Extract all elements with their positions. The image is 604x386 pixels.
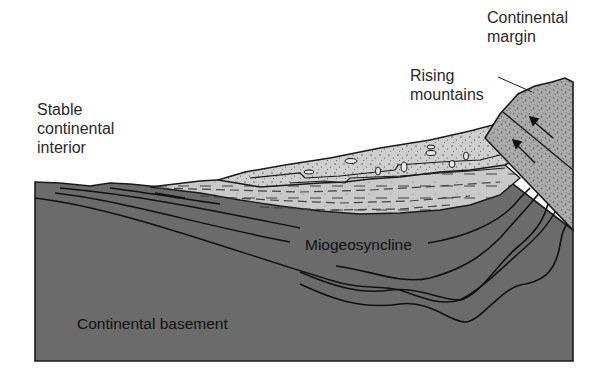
miogeosyncline-label: Miogeosyncline — [305, 235, 412, 254]
rising-mountains-leader — [498, 77, 532, 92]
rising-mountains-label: Rising mountains — [410, 66, 484, 104]
stable-continental-interior-label: Stable continental interior — [37, 100, 114, 157]
continental-margin-label: Continental margin — [487, 8, 568, 46]
continental-basement-label: Continental basement — [77, 314, 228, 333]
